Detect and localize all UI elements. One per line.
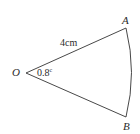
sector-shape — [0, 0, 140, 134]
point-label-a: A — [122, 15, 129, 26]
angle-label: 0.8c — [37, 68, 52, 78]
angle-unit: c — [50, 67, 53, 73]
radius-ob — [26, 73, 126, 117]
point-label-b: B — [123, 121, 130, 132]
arc-ab — [126, 28, 132, 117]
radius-length-label: 4cm — [60, 38, 77, 48]
sector-diagram: O A B 4cm 0.8c — [0, 0, 140, 134]
point-label-o: O — [12, 67, 20, 78]
angle-value: 0.8 — [37, 67, 50, 78]
